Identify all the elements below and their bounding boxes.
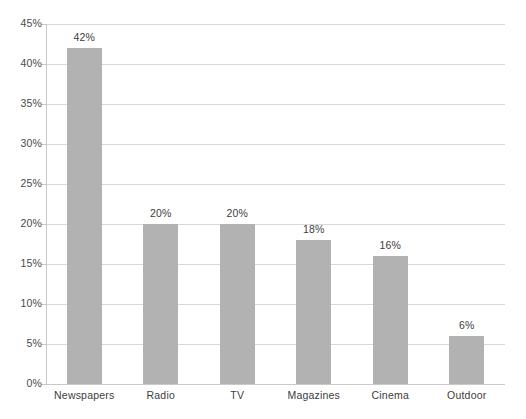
y-tick-label: 10% (0, 297, 42, 309)
gridline-20pct (46, 224, 505, 225)
gridline-0pct (46, 384, 505, 385)
y-tick-label: 5% (0, 337, 42, 349)
gridline-45pct (46, 24, 505, 25)
gridline-15pct (46, 264, 505, 265)
bar-value-label: 20% (131, 207, 191, 219)
gridline-10pct (46, 304, 505, 305)
y-tick-label: 30% (0, 137, 42, 149)
gridline-35pct (46, 104, 505, 105)
y-tick-label: 0% (0, 377, 42, 389)
y-tick-label: 45% (0, 17, 42, 29)
y-tick-label: 15% (0, 257, 42, 269)
gridline-30pct (46, 144, 505, 145)
y-axis-line (46, 24, 47, 385)
gridline-40pct (46, 64, 505, 65)
x-tick-label-outdoor: Outdoor (417, 389, 517, 401)
bar-value-label: 42% (54, 31, 114, 43)
bar-tv[interactable] (220, 224, 255, 384)
y-tick-label: 20% (0, 217, 42, 229)
gridline-25pct (46, 184, 505, 185)
bar-radio[interactable] (143, 224, 178, 384)
bar-newspapers[interactable] (67, 48, 102, 384)
bar-value-label: 16% (360, 239, 420, 251)
bar-outdoor[interactable] (449, 336, 484, 384)
bar-value-label: 20% (207, 207, 267, 219)
y-tick-label: 25% (0, 177, 42, 189)
gridline-5pct (46, 344, 505, 345)
bar-value-label: 6% (437, 319, 497, 331)
bar-magazines[interactable] (296, 240, 331, 384)
bar-cinema[interactable] (373, 256, 408, 384)
bar-chart: 0%5%10%15%20%25%30%35%40%45% 42%20%20%18… (0, 0, 526, 419)
y-tick-label: 35% (0, 97, 42, 109)
bar-value-label: 18% (284, 223, 344, 235)
y-tick-label: 40% (0, 57, 42, 69)
y-axis-tick-labels: 0%5%10%15%20%25%30%35%40%45% (0, 0, 42, 419)
